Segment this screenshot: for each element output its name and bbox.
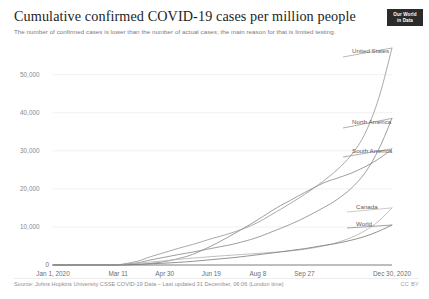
data-series-lines [53,48,392,265]
x-axis-tick-labels: Jan 1, 2020Mar 11Apr 30Jun 19Aug 8Sep 27… [36,270,411,278]
series-line-north-america [53,118,392,265]
y-tick-label: 30,000 [20,147,40,154]
y-tick-label: 40,000 [20,109,40,116]
y-tick-label-zero: 0 [45,261,49,268]
x-tick-label: Sep 27 [294,270,315,278]
x-tick-label: Jan 1, 2020 [36,270,70,277]
chart-plot-area: 010,00020,00030,00040,00050,000 Jan 1, 2… [0,0,429,299]
x-tick-label: Apr 30 [155,270,174,278]
series-label-south-america[interactable]: South America [352,147,393,154]
series-label-canada[interactable]: Canada [356,203,378,210]
y-axis-tick-labels: 010,00020,00030,00040,00050,000 [20,71,49,268]
series-line-united-states [53,48,392,265]
x-tick-label: Aug 8 [250,270,267,278]
chart-card: Cumulative confirmed COVID-19 cases per … [0,0,429,299]
series-label-united-states[interactable]: United States [352,47,389,54]
x-tick-label: Dec 30, 2020 [373,270,411,277]
y-tick-label: 20,000 [20,185,40,192]
line-chart-svg: 010,00020,00030,00040,00050,000 Jan 1, 2… [0,0,429,299]
x-tick-label: Jun 19 [202,270,222,277]
series-line-world [53,225,392,265]
footer-divider [14,278,419,279]
y-tick-label: 50,000 [20,71,40,78]
chart-footer: Source: Johns Hopkins University CSSE CO… [14,281,419,291]
source-note: Source: Johns Hopkins University CSSE CO… [14,281,284,287]
gridlines [53,75,392,227]
series-line-canada [53,208,392,265]
series-inline-labels: United StatesNorth AmericaSouth AmericaC… [352,47,393,227]
series-label-north-america[interactable]: North America [352,118,392,125]
y-tick-label: 10,000 [20,223,40,230]
x-tick-label: Mar 11 [108,270,128,277]
license-label[interactable]: CC BY [400,281,419,287]
series-label-world[interactable]: World [356,220,373,227]
